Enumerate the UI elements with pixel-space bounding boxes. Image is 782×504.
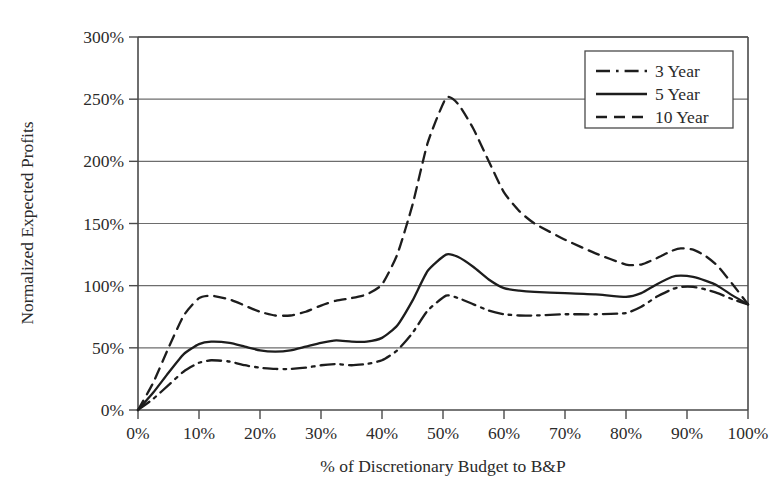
x-tick-label: 70% (549, 423, 581, 443)
y-tick-label: 300% (83, 27, 124, 47)
y-axis-title: Normalized Expected Profits (17, 121, 37, 324)
x-tick-label: 10% (183, 423, 215, 443)
x-tick-label: 80% (610, 423, 642, 443)
x-tick-label: 60% (488, 423, 520, 443)
legend-label-3-year: 3 Year (655, 61, 700, 81)
chart-legend: 3 Year5 Year10 Year (585, 51, 733, 128)
y-tick-label: 250% (83, 89, 124, 109)
x-axis-title: % of Discretionary Budget to B&P (320, 456, 566, 476)
y-tick-label: 200% (83, 151, 124, 171)
x-tick-label: 30% (305, 423, 337, 443)
y-axis-ticks: 0%50%100%150%200%250%300% (83, 27, 138, 420)
legend-label-10-year: 10 Year (655, 107, 709, 127)
line-chart: 0%50%100%150%200%250%300% 0%10%20%30%40%… (0, 0, 782, 504)
x-tick-label: 0% (126, 423, 149, 443)
y-tick-label: 50% (92, 338, 124, 358)
legend-label-5-year: 5 Year (655, 84, 700, 104)
x-tick-label: 50% (427, 423, 459, 443)
x-tick-label: 20% (244, 423, 276, 443)
y-tick-label: 150% (83, 214, 124, 234)
chart-container: 0%50%100%150%200%250%300% 0%10%20%30%40%… (0, 0, 782, 504)
series-line-10-year (138, 97, 748, 410)
x-tick-label: 40% (366, 423, 398, 443)
x-tick-label: 90% (671, 423, 703, 443)
series-line-5-year (138, 254, 748, 410)
x-axis-ticks: 0%10%20%30%40%50%60%70%80%90%100% (126, 410, 768, 443)
data-series-group (138, 97, 748, 410)
y-tick-label: 100% (83, 276, 124, 296)
y-tick-label: 0% (101, 400, 124, 420)
x-tick-label: 100% (728, 423, 769, 443)
